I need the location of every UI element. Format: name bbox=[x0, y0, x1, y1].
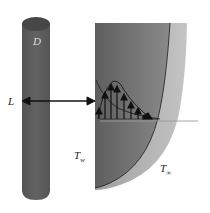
label-ambient-temperature-sub: ∞ bbox=[166, 169, 171, 177]
diagram-canvas bbox=[0, 0, 210, 213]
label-ambient-temperature: T∞ bbox=[160, 163, 171, 177]
label-diameter: D bbox=[33, 36, 41, 47]
label-wall-temperature-sub: w bbox=[80, 156, 85, 164]
heated-wall bbox=[95, 23, 187, 190]
label-wall-temperature: Tw bbox=[74, 150, 85, 164]
label-distance: L bbox=[8, 96, 14, 107]
